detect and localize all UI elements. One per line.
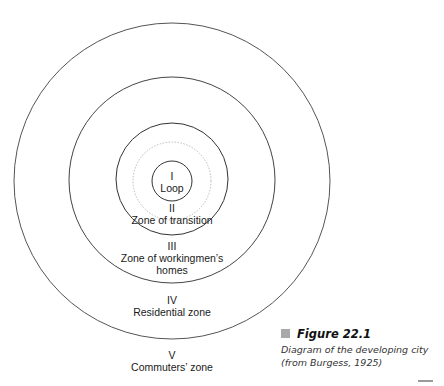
zone-iv-label: IV Residential zone [133, 294, 211, 318]
zone-i-label: I Loop [160, 170, 183, 194]
figure-title: Figure 22.1 [297, 327, 371, 341]
caption-square-icon [281, 329, 290, 338]
zone-ii-label: II Zone of transition [131, 202, 212, 226]
zone-iii-label: III Zone of workingmen’s homes [121, 240, 224, 276]
zone-i-name: Loop [160, 182, 183, 194]
zone-iii-name: Zone of workingmen’s [121, 252, 224, 264]
zone-ii-name: Zone of transition [131, 214, 212, 226]
zone-v-label: V Commuters’ zone [131, 349, 213, 373]
zone-iii-numeral: III [121, 240, 224, 252]
zone-v-name: Commuters’ zone [131, 361, 213, 373]
figure-description: Diagram of the developing city (from Bur… [281, 343, 428, 369]
caption-line-2: (from Burgess, 1925) [281, 356, 428, 369]
zone-iii-name-line2: homes [121, 264, 224, 276]
zone-i-numeral: I [160, 170, 183, 182]
page-marker [418, 380, 433, 382]
caption-line-1: Diagram of the developing city [281, 343, 428, 356]
zone-ii-numeral: II [131, 202, 212, 214]
zone-v-numeral: V [131, 349, 213, 361]
zone-iv-name: Residential zone [133, 306, 211, 318]
concentric-zone-diagram [0, 0, 444, 386]
zone-iv-numeral: IV [133, 294, 211, 306]
